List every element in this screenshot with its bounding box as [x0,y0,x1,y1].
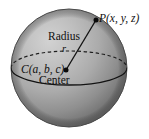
point-p-label: P(x, y, z) [99,13,139,25]
radius-symbol-label: r [62,44,66,55]
center-word-label: Center [39,75,70,87]
radius-label: Radius [48,31,80,43]
sphere-diagram: P(x, y, z) Radius r C(a, b, c) Center [0,0,149,139]
surface-point-marker [94,18,99,23]
